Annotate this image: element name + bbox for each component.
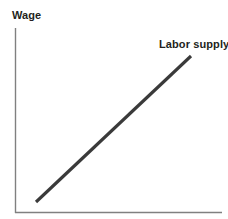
chart-background xyxy=(0,0,228,219)
labor-supply-chart: Wage Labor supply xyxy=(0,0,228,219)
y-axis-title: Wage xyxy=(12,9,41,21)
series-label-labor-supply: Labor supply xyxy=(159,38,228,50)
chart-plot-area xyxy=(0,0,228,219)
